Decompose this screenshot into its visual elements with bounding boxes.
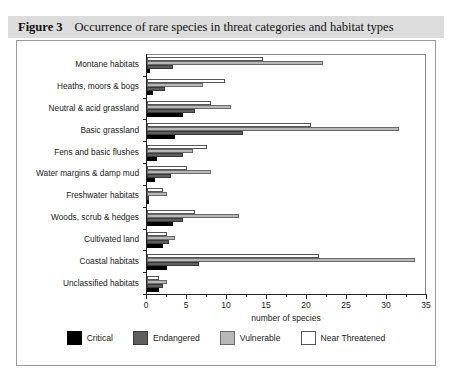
chart-legend: CriticalEndangeredVulnerableNear Threate… bbox=[16, 326, 436, 350]
category-row: Basic grassland bbox=[146, 119, 426, 141]
figure-caption-bar: Figure 3 Occurrence of rare species in t… bbox=[8, 16, 444, 38]
x-axis-tick-label: 15 bbox=[261, 301, 270, 310]
x-axis-major-tick bbox=[146, 294, 147, 299]
category-label: Unclassified habitats bbox=[63, 279, 139, 287]
legend-label: Vulnerable bbox=[240, 333, 281, 343]
category-row: Montane habitats bbox=[146, 54, 426, 76]
legend-label: Critical bbox=[87, 333, 113, 343]
bar-critical bbox=[147, 266, 167, 270]
category-row: Cultivated land bbox=[146, 229, 426, 251]
x-axis-minor-tick bbox=[326, 294, 327, 297]
category-row: Fens and basic flushes bbox=[146, 141, 426, 163]
bar-critical bbox=[147, 288, 159, 292]
x-axis-tick-label: 0 bbox=[144, 301, 149, 310]
category-label: Fens and basic flushes bbox=[54, 148, 139, 156]
plot-area: Montane habitatsHeaths, moors & bogsNeut… bbox=[146, 54, 426, 294]
category-label: Basic grassland bbox=[80, 126, 139, 134]
x-axis-minor-tick bbox=[246, 294, 247, 297]
legend-swatch-icon bbox=[220, 331, 235, 345]
chart-frame: Montane habitatsHeaths, moors & bogsNeut… bbox=[16, 40, 436, 366]
category-row: Unclassified habitats bbox=[146, 272, 426, 294]
bar-critical bbox=[147, 113, 183, 117]
bar-critical bbox=[147, 200, 149, 204]
category-row: Heaths, moors & bogs bbox=[146, 76, 426, 98]
legend-swatch-icon bbox=[133, 331, 148, 345]
bar-endangered bbox=[147, 65, 173, 69]
category-label: Neutral & acid grassland bbox=[49, 104, 139, 112]
category-label: Coastal habitats bbox=[80, 257, 140, 265]
x-axis-tick-label: 20 bbox=[301, 301, 310, 310]
x-axis-minor-tick bbox=[406, 294, 407, 297]
category-label: Woods, scrub & hedges bbox=[51, 213, 139, 221]
x-axis-minor-tick bbox=[206, 294, 207, 297]
category-row: Water margins & damp mud bbox=[146, 163, 426, 185]
legend-label: Near Threatened bbox=[321, 333, 386, 343]
x-axis-minor-tick bbox=[366, 294, 367, 297]
legend-swatch-icon bbox=[301, 331, 316, 345]
figure-number: Figure 3 bbox=[18, 20, 63, 35]
bar-critical bbox=[147, 69, 150, 73]
x-axis-tick-label: 35 bbox=[421, 301, 430, 310]
x-axis-tick-label: 30 bbox=[381, 301, 390, 310]
bar-critical bbox=[147, 244, 163, 248]
x-axis-tick-label: 5 bbox=[184, 301, 189, 310]
x-axis-minor-tick bbox=[166, 294, 167, 297]
legend-item: Endangered bbox=[133, 331, 200, 345]
category-row: Freshwater habitats bbox=[146, 185, 426, 207]
x-axis-major-tick bbox=[186, 294, 187, 299]
x-axis-title: number of species bbox=[251, 313, 320, 323]
legend-label: Endangered bbox=[153, 333, 200, 343]
category-label: Heaths, moors & bogs bbox=[57, 82, 139, 90]
x-axis-tick-label: 10 bbox=[221, 301, 230, 310]
category-row: Woods, scrub & hedges bbox=[146, 207, 426, 229]
figure-container: Figure 3 Occurrence of rare species in t… bbox=[0, 0, 452, 380]
x-axis-major-tick bbox=[386, 294, 387, 299]
category-label: Montane habitats bbox=[75, 60, 139, 68]
x-axis-major-tick bbox=[426, 294, 427, 299]
bar-critical bbox=[147, 135, 175, 139]
category-label: Water margins & damp mud bbox=[36, 169, 139, 177]
category-label: Freshwater habitats bbox=[66, 191, 139, 199]
x-axis-major-tick bbox=[226, 294, 227, 299]
figure-caption-text: Occurrence of rare species in threat cat… bbox=[75, 20, 394, 35]
legend-item: Near Threatened bbox=[301, 331, 386, 345]
x-axis-major-tick bbox=[266, 294, 267, 299]
legend-item: Vulnerable bbox=[220, 331, 281, 345]
bar-critical bbox=[147, 178, 155, 182]
legend-swatch-icon bbox=[67, 331, 82, 345]
legend-item: Critical bbox=[67, 331, 113, 345]
x-axis-tick-label: 25 bbox=[341, 301, 350, 310]
bar-critical bbox=[147, 91, 153, 95]
x-axis-major-tick bbox=[346, 294, 347, 299]
bar-critical bbox=[147, 157, 157, 161]
category-row: Coastal habitats bbox=[146, 250, 426, 272]
bar-vulnerable bbox=[147, 192, 167, 196]
bar-vulnerable bbox=[147, 61, 323, 65]
x-axis-minor-tick bbox=[286, 294, 287, 297]
category-row: Neutral & acid grassland bbox=[146, 98, 426, 120]
category-label: Cultivated land bbox=[84, 235, 139, 243]
x-axis-major-tick bbox=[306, 294, 307, 299]
bar-critical bbox=[147, 222, 173, 226]
